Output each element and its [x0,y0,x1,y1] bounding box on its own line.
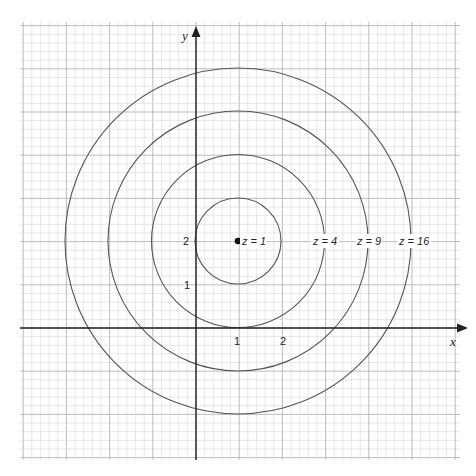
contour-label-z1: z = 1 [241,235,266,247]
contour-plot: y x 1 2 1 2 z = 1 z = 4 z = 9 z = 16 [0,0,476,476]
tick-y-2: 2 [183,235,189,247]
y-axis-arrow-icon [192,26,201,37]
x-axis-arrow-icon [457,324,468,333]
y-axis-label: y [180,28,188,43]
contour-label-z16: z = 16 [398,235,430,247]
tick-x-1: 1 [234,335,240,347]
tick-y-1: 1 [184,279,190,291]
contour-label-z4: z = 4 [312,235,337,247]
tick-x-2: 2 [280,335,286,347]
contour-label-z9: z = 9 [356,235,381,247]
x-axis-label: x [449,334,456,349]
